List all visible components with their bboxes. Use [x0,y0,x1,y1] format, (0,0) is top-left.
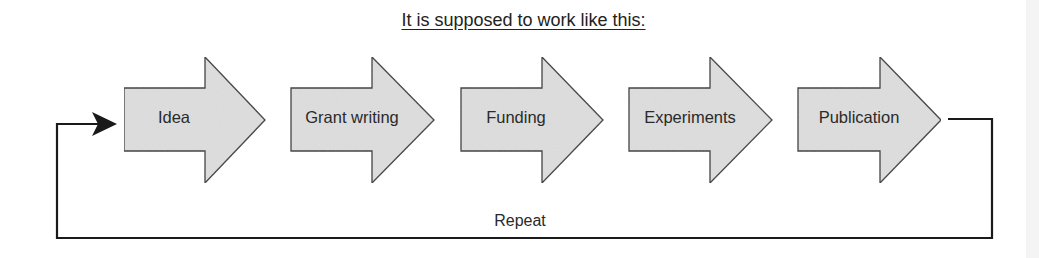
step-label-grant-writing: Grant writing [291,108,413,127]
step-label-funding: Funding [461,108,571,127]
step-label-idea: Idea [124,108,224,127]
repeat-label: Repeat [480,212,560,230]
step-label-publication: Publication [798,108,920,127]
step-label-experiments: Experiments [629,108,751,127]
